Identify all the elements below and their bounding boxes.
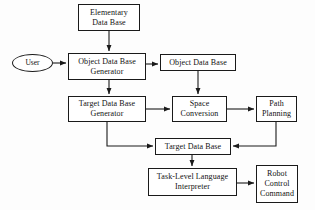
node-label: Target Data Base Generator [79,99,135,119]
node-path-planning[interactable]: Path Planning [256,96,297,122]
flowchart-canvas: Elementary Data Base User Object Data Ba… [0,0,315,210]
node-object-data-base-generator[interactable]: Object Data Base Generator [68,53,146,80]
node-target-data-base[interactable]: Target Data Base [155,138,231,155]
node-label: Path Planning [262,99,291,119]
node-robot-control-command[interactable]: Robot Control Command [256,165,298,203]
node-label: Object Data Base [169,58,227,68]
edge-tdbg-to-tdb [107,122,153,146]
node-object-data-base[interactable]: Object Data Base [160,54,236,71]
node-label: Task-Level Language Interpreter [157,172,228,192]
node-target-data-base-generator[interactable]: Target Data Base Generator [68,96,146,122]
node-label: Elementary Data Base [90,8,128,28]
node-task-level-language-interpreter[interactable]: Task-Level Language Interpreter [148,168,237,196]
node-label: Space Conversion [181,99,219,119]
node-label: Object Data Base Generator [78,57,136,77]
edge-path-to-tdb [233,122,276,146]
node-space-conversion[interactable]: Space Conversion [172,96,227,122]
node-label: Target Data Base [165,142,221,152]
node-user[interactable]: User [12,54,53,72]
node-label: Robot Control Command [260,169,294,199]
node-elementary-data-base[interactable]: Elementary Data Base [78,4,140,31]
node-label: User [25,59,39,67]
